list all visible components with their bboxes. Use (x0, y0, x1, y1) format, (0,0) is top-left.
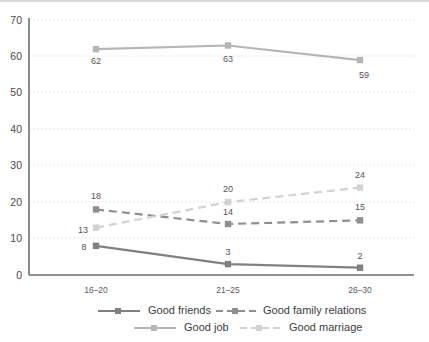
data-point-marker (225, 261, 231, 267)
data-point-label: 59 (359, 70, 369, 80)
legend-swatch-marker (256, 325, 262, 331)
legend-item-good-job[interactable]: Good job (134, 321, 229, 333)
data-point-label: 62 (91, 56, 101, 66)
data-point-label: 15 (355, 202, 365, 212)
data-point-marker (357, 57, 363, 63)
legend-swatch-marker (115, 308, 121, 314)
data-point-label: 2 (357, 251, 362, 261)
series-good-family-relations: 181415 (91, 191, 365, 227)
y-axis-tick-labels: 70 60 50 40 30 20 10 0 (10, 14, 22, 281)
x-tick-label: 21–25 (216, 285, 240, 295)
x-tick-label: 16–20 (84, 285, 108, 295)
legend-swatch-marker (232, 308, 238, 314)
legend-label: Good job (184, 321, 229, 333)
data-point-label: 18 (91, 191, 101, 201)
x-tick-label: 26–30 (348, 285, 372, 295)
legend-label: Good friends (148, 304, 211, 316)
y-tick-label: 50 (10, 86, 22, 98)
legend-label: Good family relations (263, 304, 367, 316)
data-point-label: 14 (223, 207, 233, 217)
y-tick-label: 10 (10, 232, 22, 244)
series-good-job: 626359 (91, 42, 369, 80)
data-point-marker (357, 265, 363, 271)
chart-legend: Good friends Good family relations Good … (98, 304, 367, 333)
y-tick-label: 0 (16, 269, 22, 281)
data-point-label: 13 (78, 225, 88, 235)
chart-container: 70 60 50 40 30 20 10 0 16–20 21–25 26–30… (0, 0, 429, 342)
data-point-marker (357, 217, 363, 223)
line-chart-plot: 70 60 50 40 30 20 10 0 16–20 21–25 26–30… (0, 0, 429, 342)
y-tick-label: 70 (10, 14, 22, 26)
data-point-marker (93, 46, 99, 52)
data-point-label: 8 (81, 242, 86, 252)
data-point-marker (93, 206, 99, 212)
data-point-label: 3 (225, 247, 230, 257)
legend-swatch-marker (151, 325, 157, 331)
legend-label: Good marriage (289, 321, 362, 333)
legend-item-good-family-relations[interactable]: Good family relations (216, 304, 367, 316)
data-point-marker (357, 184, 363, 190)
data-point-label: 63 (223, 54, 233, 64)
series-good-friends: 832 (81, 242, 363, 271)
data-point-marker (93, 243, 99, 249)
data-point-marker (225, 42, 231, 48)
data-point-label: 20 (223, 184, 233, 194)
data-point-marker (225, 221, 231, 227)
legend-item-good-friends[interactable]: Good friends (98, 304, 211, 316)
y-tick-label: 20 (10, 196, 22, 208)
series-layer: 832181415626359132024 (78, 42, 369, 271)
data-point-label: 24 (355, 170, 365, 180)
y-tick-label: 60 (10, 50, 22, 62)
data-point-marker (225, 199, 231, 205)
legend-item-good-marriage[interactable]: Good marriage (240, 321, 362, 333)
data-point-marker (93, 224, 99, 230)
x-axis-category-labels: 16–20 21–25 26–30 (84, 285, 372, 295)
y-tick-label: 30 (10, 159, 22, 171)
y-tick-label: 40 (10, 123, 22, 135)
